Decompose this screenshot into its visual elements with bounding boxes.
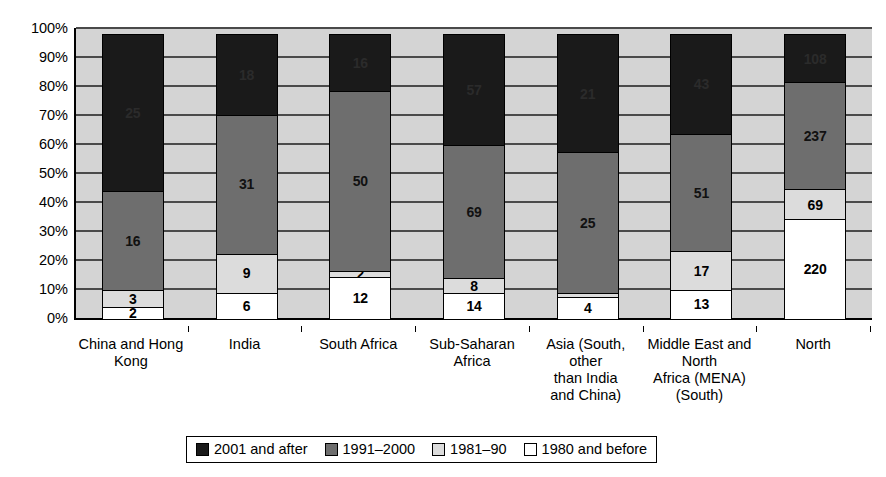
y-tick-label: 70% [14,108,68,123]
bar-segment: 4 [557,297,619,320]
bar-segment: 13 [670,289,732,319]
bar-segment: 16 [329,34,391,92]
x-category-label: Asia (South, other than India and China) [529,336,643,404]
bar-segment: 8 [443,278,505,294]
bar-segment: 69 [784,189,846,221]
chart-legend: 2001 and after1991–20001981–901980 and b… [186,436,657,463]
x-tick-mark [643,326,644,332]
x-category-label: Middle East and North Africa (MENA) (Sou… [643,336,757,404]
plot-area: 2316256931181225016148695742521131751432… [74,28,872,320]
bar-segment: 25 [102,34,164,192]
bar-segment-label: 108 [804,52,827,66]
bar-segment: 51 [670,133,732,252]
x-tick-mark [870,326,871,332]
x-category-label: Sub-Saharan Africa [415,336,529,370]
x-axis: China and Hong KongIndiaSouth AfricaSub-… [74,326,870,426]
x-tick-mark [188,326,189,332]
bar-segment-label: 16 [353,56,368,70]
stacked-bar: 1225016 [329,28,391,318]
bar-segment: 57 [443,34,505,146]
bar-segment-label: 17 [694,264,709,278]
y-tick-label: 90% [14,50,68,65]
bar-segment-label: 43 [694,77,709,91]
legend-item[interactable]: 2001 and after [196,442,308,457]
bar-segment-label: 25 [580,216,595,230]
bar-column: 1486957 [443,28,505,318]
stacked-bar-chart: 0%10%20%30%40%50%60%70%80%90%100% 231625… [0,0,886,477]
bar-column: 22069237108 [784,28,846,318]
legend-item[interactable]: 1991–2000 [325,442,416,457]
bar-segment: 9 [216,253,278,294]
bar-segment: 16 [102,190,164,291]
stacked-bar: 231625 [102,28,164,318]
x-tick-mark [301,326,302,332]
bar-segment-label: 12 [353,291,368,305]
bar-segment: 18 [216,34,278,116]
bar-segment-label: 2 [129,307,137,320]
x-category-label: North [756,336,870,353]
bar-segment: 12 [329,276,391,320]
bar-segment: 43 [670,34,732,135]
y-tick-label: 40% [14,195,68,210]
bar-segment-label: 16 [125,234,140,248]
bar-segment: 25 [557,152,619,294]
x-tick-mark [529,326,530,332]
stacked-bar: 22069237108 [784,28,846,318]
y-tick-label: 80% [14,79,68,94]
bar-segment: 3 [102,290,164,309]
legend-swatch-icon [196,443,209,456]
x-tick-mark [756,326,757,332]
bar-segment: 2 [102,307,164,320]
legend-label: 1981–90 [450,442,506,457]
bar-segment: 14 [443,292,505,319]
bar-column: 42521 [557,28,619,318]
bar-segment-label: 21 [580,87,595,101]
y-axis: 0%10%20%30%40%50%60%70%80%90%100% [14,28,68,318]
y-tick-label: 30% [14,224,68,239]
bar-segment-label: 6 [243,299,251,313]
bar-segment-label: 3 [129,292,137,306]
legend-item[interactable]: 1981–90 [432,442,506,457]
bar-segment: 50 [329,91,391,272]
bar-column: 231625 [102,28,164,318]
y-tick-label: 100% [14,21,68,36]
bar-segment-label: 57 [466,83,481,97]
bar-column: 13175143 [670,28,732,318]
stacked-bar: 693118 [216,28,278,318]
stacked-bar: 1486957 [443,28,505,318]
legend-label: 2001 and after [214,442,308,457]
x-category-label: South Africa [301,336,415,353]
bar-segment-label: 237 [804,129,827,143]
legend-label: 1980 and before [542,442,648,457]
bar-segment: 31 [216,114,278,254]
y-tick-label: 10% [14,282,68,297]
bar-segment-label: 14 [466,299,481,313]
bar-column: 1225016 [329,28,391,318]
y-tick-label: 60% [14,137,68,152]
bar-segment: 69 [443,144,505,279]
legend-swatch-icon [432,443,445,456]
y-tick-label: 50% [14,166,68,181]
bar-segment-label: 50 [353,174,368,188]
legend-label: 1991–2000 [343,442,416,457]
bar-segment-label: 31 [239,177,254,191]
y-tick-label: 20% [14,253,68,268]
legend-item[interactable]: 1980 and before [524,442,648,457]
bar-segment: 6 [216,292,278,319]
bar-column: 693118 [216,28,278,318]
bar-segment: 220 [784,219,846,320]
bar-segment-label: 4 [584,301,592,315]
plot-inner: 2316256931181225016148695742521131751432… [76,28,872,318]
bar-segment: 237 [784,82,846,190]
x-category-label: India [188,336,302,353]
y-tick-label: 0% [14,311,68,326]
bar-segment-label: 9 [243,266,251,280]
bar-segment-label: 220 [804,262,827,276]
stacked-bar: 42521 [557,28,619,318]
legend-swatch-icon [524,443,537,456]
x-tick-mark [415,326,416,332]
bar-segment-label: 8 [470,279,478,293]
bar-segment: 21 [557,34,619,153]
bar-segment-label: 13 [694,297,709,311]
bar-segment: 108 [784,34,846,83]
